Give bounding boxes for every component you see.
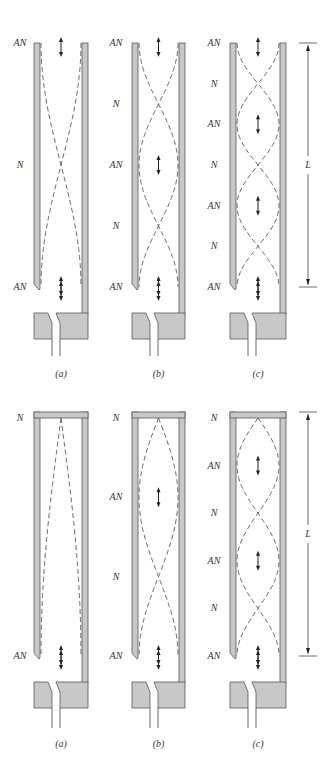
- pipe-closed-top: [230, 412, 286, 418]
- node-label: N: [112, 98, 121, 109]
- arrowhead-up-icon: [59, 276, 63, 281]
- antinode-label: AN: [207, 555, 222, 566]
- arrowhead-up-icon: [256, 114, 260, 119]
- mouthpiece-left-block: [132, 682, 150, 708]
- displacement-curve-lower: [237, 418, 279, 656]
- antinode-label: AN: [207, 281, 222, 292]
- panel-caption: (b): [153, 738, 165, 750]
- arrowhead-down-icon: [256, 211, 260, 216]
- mouthpiece-right-block: [154, 682, 185, 708]
- arrowhead-up-icon: [59, 645, 63, 650]
- node-label: N: [210, 412, 219, 423]
- node-label: N: [112, 220, 121, 231]
- pipe-right-wall: [82, 412, 88, 683]
- displacement-curve-upper: [237, 418, 279, 656]
- arrowhead-up-icon: [256, 645, 260, 650]
- pipe-panel-top-c: ANNANNANNAN(c)L: [207, 37, 317, 380]
- arrowhead-down-icon: [157, 52, 161, 57]
- mouthpiece-left-block: [230, 313, 248, 339]
- panel-caption: (c): [252, 368, 264, 380]
- mouthpiece-right-block: [154, 313, 185, 339]
- arrowhead-up-icon: [256, 37, 260, 42]
- node-label: N: [210, 240, 219, 251]
- antinode-label: AN: [109, 37, 124, 48]
- antinode-label: AN: [13, 281, 28, 292]
- arrowhead-up-icon: [59, 281, 63, 286]
- length-label: L: [304, 528, 311, 539]
- arrowhead-down-icon: [157, 170, 161, 175]
- displacement-curve-lower: [41, 43, 81, 287]
- arrowhead-up-icon: [157, 281, 161, 286]
- panel-caption: (a): [55, 738, 67, 750]
- arrowhead-down-icon: [157, 665, 161, 670]
- antinode-label: AN: [207, 650, 222, 661]
- arrowhead-up-icon: [256, 281, 260, 286]
- panel-caption: (b): [153, 368, 165, 380]
- pipe-right-wall: [280, 412, 286, 683]
- arrowhead-up-icon: [157, 155, 161, 160]
- antinode-label: AN: [109, 491, 124, 502]
- arrowhead-up-icon: [157, 645, 161, 650]
- pipe-right-wall: [280, 43, 286, 314]
- panel-caption: (c): [252, 738, 264, 750]
- mouthpiece-left-block: [34, 682, 52, 708]
- pipe-left-wall: [34, 43, 40, 290]
- node-label: N: [210, 602, 219, 613]
- arrowhead-up-icon: [59, 650, 63, 655]
- pipe-closed-top: [132, 412, 185, 418]
- mouthpiece-left-block: [34, 313, 52, 339]
- pipe-right-wall: [179, 412, 185, 683]
- arrowhead-down-icon: [157, 296, 161, 301]
- displacement-curve-lower: [237, 43, 279, 287]
- arrowhead-down-icon: [256, 471, 260, 476]
- length-arrowhead-up-icon: [306, 414, 310, 420]
- antinode-label: AN: [13, 37, 28, 48]
- pipe-left-wall: [230, 412, 236, 659]
- pipe-panel-top-b: ANNANNAN(b): [109, 37, 185, 380]
- antinode-label: AN: [13, 650, 28, 661]
- arrowhead-down-icon: [256, 296, 260, 301]
- arrowhead-up-icon: [157, 276, 161, 281]
- pipe-left-wall: [132, 412, 138, 659]
- arrowhead-up-icon: [256, 650, 260, 655]
- arrowhead-down-icon: [157, 502, 161, 507]
- arrowhead-up-icon: [157, 650, 161, 655]
- antinode-label: AN: [109, 281, 124, 292]
- arrowhead-up-icon: [256, 196, 260, 201]
- antinode-label: AN: [207, 37, 222, 48]
- length-arrowhead-down-icon: [306, 648, 310, 654]
- node-label: N: [16, 412, 25, 423]
- length-arrowhead-down-icon: [306, 279, 310, 285]
- arrowhead-up-icon: [157, 37, 161, 42]
- arrowhead-down-icon: [256, 129, 260, 134]
- arrowhead-up-icon: [256, 456, 260, 461]
- mouthpiece-right-block: [252, 313, 286, 339]
- mouthpiece-right-block: [252, 682, 286, 708]
- arrowhead-up-icon: [59, 37, 63, 42]
- node-label: N: [210, 159, 219, 170]
- standing-wave-pipes-figure: ANNAN(a)ANNANNAN(b)ANNANNANNAN(c)LNAN(a)…: [0, 0, 334, 784]
- pipe-left-wall: [34, 412, 40, 659]
- arrowhead-up-icon: [256, 551, 260, 556]
- length-label: L: [304, 159, 311, 170]
- node-label: N: [112, 571, 121, 582]
- antinode-label: AN: [207, 118, 222, 129]
- panel-caption: (a): [55, 368, 67, 380]
- arrowhead-down-icon: [256, 52, 260, 57]
- antinode-label: AN: [207, 460, 222, 471]
- antinode-label: AN: [109, 650, 124, 661]
- length-arrowhead-up-icon: [306, 45, 310, 51]
- antinode-label: AN: [109, 159, 124, 170]
- node-label: N: [112, 412, 121, 423]
- mouthpiece-right-block: [56, 313, 88, 339]
- mouthpiece-right-block: [56, 682, 88, 708]
- arrowhead-down-icon: [59, 296, 63, 301]
- displacement-curve-lower: [41, 418, 61, 656]
- pipe-right-wall: [179, 43, 185, 314]
- arrowhead-down-icon: [256, 566, 260, 571]
- pipe-panel-bottom-a: NAN(a): [13, 412, 88, 750]
- arrowhead-up-icon: [256, 276, 260, 281]
- pipe-right-wall: [82, 43, 88, 314]
- node-label: N: [210, 507, 219, 518]
- node-label: N: [16, 159, 25, 170]
